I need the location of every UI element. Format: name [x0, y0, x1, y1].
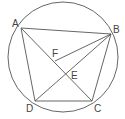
segment-AC: [21, 28, 92, 101]
label-C: C: [94, 103, 101, 114]
label-A: A: [12, 18, 19, 29]
label-D: D: [26, 103, 33, 114]
segment-BC: [92, 34, 111, 101]
segment-BF: [55, 34, 111, 61]
label-E: E: [71, 70, 78, 81]
label-F: F: [52, 48, 58, 59]
label-B: B: [113, 24, 120, 35]
segment-DA: [21, 28, 35, 101]
segment-AB: [21, 28, 111, 34]
segment-BD: [35, 34, 111, 101]
geometry-diagram: A B C D E F: [0, 0, 125, 119]
